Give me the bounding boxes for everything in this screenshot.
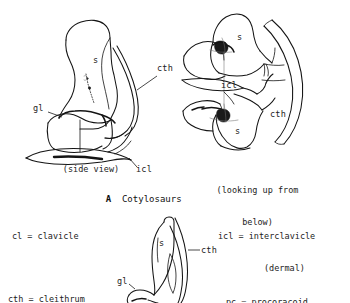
legend-entry-icl-sub: (dermal) xyxy=(264,263,350,274)
legend-entry-icl: icl = interclavicle xyxy=(218,231,350,242)
legend-entry-cth: cth = cleithrum xyxy=(8,294,143,303)
figure-label-cth-below: cth xyxy=(270,109,286,119)
legend-left-column: cl = clavicle cth = cleithrum (dermal) g… xyxy=(8,210,143,303)
legend-entry-pc: pc = procoracoid xyxy=(226,297,350,303)
illustration-page: s cth gl icl xyxy=(0,0,350,303)
figure-label-s-lower-partial: s xyxy=(159,238,164,248)
figure-label-s-lower-below: s xyxy=(235,126,240,136)
plate-title-text: Cotylosaurs xyxy=(122,194,182,204)
plate-title-spacer xyxy=(111,194,122,204)
legend-entry-cl: cl = clavicle xyxy=(12,231,143,242)
figure-side-view: s cth gl icl xyxy=(18,8,178,163)
caption-side-view: (side view) xyxy=(36,164,146,175)
figure-label-s-side: s xyxy=(93,55,98,65)
figure-label-icl-below: icl xyxy=(221,80,237,90)
caption-below-line1: (looking up from xyxy=(185,185,330,196)
legend-right-column: icl = interclavicle (dermal) pc = procor… xyxy=(218,210,350,303)
figure-label-s-upper-below: s xyxy=(237,32,242,42)
figure-label-gl-side: gl xyxy=(33,103,44,113)
figure-below-view: s icl cth s xyxy=(180,8,330,160)
figure-label-cth-side: cth xyxy=(157,63,173,73)
